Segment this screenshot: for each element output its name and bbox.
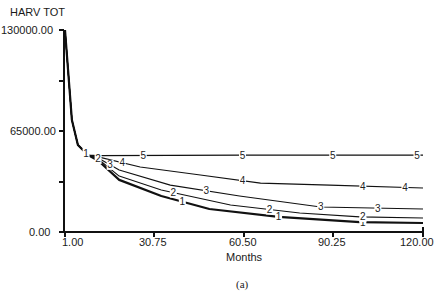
series-marker-2: 2 (267, 204, 273, 215)
series-marker-2: 2 (171, 187, 177, 198)
series-marker-2: 2 (95, 153, 101, 164)
series-marker-4: 4 (240, 175, 246, 186)
series-marker-5: 5 (330, 150, 336, 161)
series-marker-3: 3 (107, 159, 113, 170)
series-line-5 (65, 30, 423, 156)
series-marker-5: 5 (414, 150, 420, 161)
series-line-1 (65, 30, 423, 223)
series-marker-1: 1 (180, 196, 186, 207)
series-marker-1: 1 (83, 148, 89, 159)
series-marker-4: 4 (119, 157, 125, 168)
series-marker-1: 1 (276, 211, 282, 222)
series-marker-5: 5 (240, 150, 246, 161)
series-line-2 (65, 30, 423, 218)
plot-area: 11112222333344445555 (0, 0, 439, 297)
series-marker-4: 4 (360, 181, 366, 192)
series-lines (65, 30, 423, 223)
series-marker-3: 3 (318, 201, 324, 212)
series-marker-3: 3 (204, 185, 210, 196)
series-marker-3: 3 (375, 203, 381, 214)
series-marker-5: 5 (140, 150, 146, 161)
series-marker-2: 2 (360, 211, 366, 222)
series-markers: 11112222333344445555 (83, 148, 421, 228)
series-marker-4: 4 (402, 182, 408, 193)
